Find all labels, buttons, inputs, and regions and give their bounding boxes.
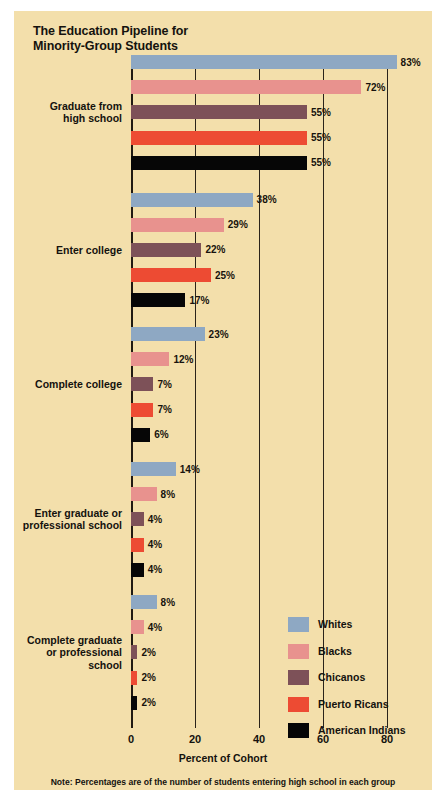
bar-row: 4% — [131, 538, 387, 552]
bar-row: 17% — [131, 293, 387, 307]
bar-row: 4% — [131, 563, 387, 577]
bar-row: 7% — [131, 403, 387, 417]
category-label: Enter college — [56, 244, 122, 257]
bar-value-label: 2% — [137, 670, 155, 685]
bar-row: 6% — [131, 428, 387, 442]
x-axis-label: Percent of Cohort — [14, 752, 432, 764]
category-label-line: Complete college — [35, 378, 122, 391]
bar-value-label: 55% — [307, 130, 331, 145]
bar-value-label: 55% — [307, 155, 331, 170]
category-label-line: Enter graduate or — [23, 507, 122, 520]
bar-puerto-ricans — [131, 403, 153, 417]
bar-value-label: 29% — [224, 217, 248, 232]
legend-label: Whites — [318, 616, 352, 632]
bar-value-label: 4% — [144, 620, 162, 635]
category-label-line: professional school — [23, 519, 122, 532]
bar-value-label: 8% — [157, 487, 175, 502]
bar-group: 38%29%22%25%17%Enter college — [131, 193, 387, 319]
bar-row: 22% — [131, 243, 387, 257]
bar-chicanos — [131, 243, 201, 257]
category-label-line: Graduate from — [50, 100, 122, 113]
x-tick-80: 80 — [381, 733, 393, 745]
bar-american-indians — [131, 293, 185, 307]
bar-value-label: 17% — [185, 293, 209, 308]
bar-whites — [131, 193, 253, 207]
bar-row: 4% — [131, 512, 387, 526]
bar-row: 23% — [131, 327, 387, 341]
bar-value-label: 55% — [307, 105, 331, 120]
bar-row: 8% — [131, 487, 387, 501]
bar-chicanos — [131, 377, 153, 391]
legend-swatch — [288, 697, 309, 712]
chart-panel: The Education Pipeline for Minority-Grou… — [14, 11, 432, 790]
category-label: Graduate fromhigh school — [50, 100, 122, 125]
bar-value-label: 12% — [169, 352, 193, 367]
bar-whites — [131, 595, 157, 609]
title-line-2: Minority-Group Students — [33, 39, 293, 54]
bar-blacks — [131, 80, 361, 94]
legend-swatch — [288, 670, 309, 685]
bar-puerto-ricans — [131, 538, 144, 552]
bar-value-label: 38% — [253, 192, 277, 207]
bar-value-label: 4% — [144, 562, 162, 577]
category-label: Complete college — [35, 378, 122, 391]
legend-label: Blacks — [318, 643, 352, 659]
bar-chicanos — [131, 105, 307, 119]
bar-whites — [131, 55, 397, 69]
gridline-80 — [387, 55, 388, 728]
bar-value-label: 6% — [150, 427, 168, 442]
bar-row: 25% — [131, 268, 387, 282]
bar-value-label: 2% — [137, 645, 155, 660]
legend-label: Puerto Ricans — [318, 696, 389, 712]
bar-value-label: 22% — [201, 242, 225, 257]
bar-value-label: 72% — [361, 80, 385, 95]
category-label: Enter graduate orprofessional school — [23, 507, 122, 532]
x-tick-20: 20 — [189, 733, 201, 745]
category-label-line: Complete graduate — [27, 634, 122, 647]
bar-value-label: 14% — [176, 462, 200, 477]
bar-group: 83%72%55%55%55%Graduate fromhigh school — [131, 55, 387, 181]
bar-value-label: 7% — [153, 402, 171, 417]
legend-swatch — [288, 617, 309, 632]
bar-row: 83% — [131, 55, 387, 69]
bar-value-label: 8% — [157, 595, 175, 610]
bar-row: 55% — [131, 156, 387, 170]
bar-group: 23%12%7%7%6%Complete college — [131, 327, 387, 453]
bar-blacks — [131, 620, 144, 634]
bar-puerto-ricans — [131, 268, 211, 282]
page-title: The Education Pipeline for Minority-Grou… — [33, 24, 293, 53]
bar-row: 72% — [131, 80, 387, 94]
bar-value-label: 83% — [397, 55, 421, 70]
bar-chicanos — [131, 512, 144, 526]
bar-value-label: 2% — [137, 695, 155, 710]
bar-american-indians — [131, 563, 144, 577]
bar-row: 38% — [131, 193, 387, 207]
category-label-line: or professional — [27, 646, 122, 659]
bar-blacks — [131, 352, 169, 366]
legend-swatch — [288, 644, 309, 659]
bar-row: 8% — [131, 595, 387, 609]
legend-swatch — [288, 723, 309, 738]
bar-group: 14%8%4%4%4%Enter graduate orprofessional… — [131, 462, 387, 588]
bar-value-label: 7% — [153, 377, 171, 392]
bar-puerto-ricans — [131, 131, 307, 145]
x-tick-60: 60 — [317, 733, 329, 745]
category-label-line: school — [27, 659, 122, 672]
bar-blacks — [131, 218, 224, 232]
bar-american-indians — [131, 428, 150, 442]
bar-row: 55% — [131, 105, 387, 119]
bar-american-indians — [131, 156, 307, 170]
bar-value-label: 23% — [205, 327, 229, 342]
x-tick-40: 40 — [253, 733, 265, 745]
title-line-1: The Education Pipeline for — [33, 24, 293, 39]
bar-row: 12% — [131, 352, 387, 366]
bar-row: 7% — [131, 377, 387, 391]
bar-value-label: 25% — [211, 268, 235, 283]
category-label: Complete graduateor professionalschool — [27, 634, 122, 672]
footnote: Note: Percentages are of the number of s… — [14, 777, 432, 787]
category-label-line: Enter college — [56, 244, 122, 257]
bar-row: 55% — [131, 131, 387, 145]
x-tick-0: 0 — [128, 733, 134, 745]
legend-label: Chicanos — [318, 669, 365, 685]
bar-whites — [131, 462, 176, 476]
